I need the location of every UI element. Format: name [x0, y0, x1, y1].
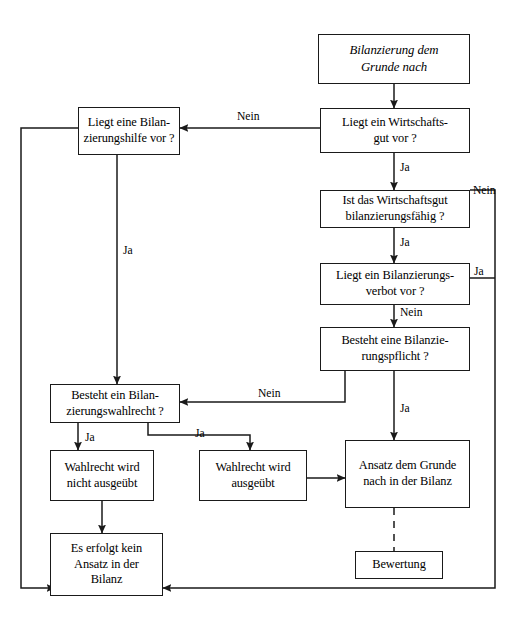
node-ist-das-wirtschaftsgut-bilanzierungsfaehig: Ist das Wirtschaftsgut bilanzierungsfähi… — [320, 190, 470, 228]
wahlrecht-nicht-line-2: nicht ausgeübt — [67, 476, 138, 490]
ansatz-line-2: nach in der Bilanz — [363, 474, 452, 488]
node-ansatz-dem-grunde-nach-in-der-bilanz: Ansatz dem Grunde nach in der Bilanz — [345, 440, 470, 508]
edge-bilanzierungsfaehig-nein — [163, 190, 495, 588]
bilanzierungsfaehig-line-1: Ist das Wirtschaftsgut — [342, 193, 447, 207]
edge-label-bilanzierungsfaehig-nein: Nein — [473, 185, 496, 197]
edge-label-bilanzierungspflicht-nein: Nein — [258, 388, 281, 400]
wirtschaftsgut-line-1: Liegt ein Wirtschafts- — [342, 115, 448, 129]
node-wahlrecht-wird-ausgeuebt: Wahlrecht wird ausgeübt — [199, 450, 307, 501]
edge-label-wirtschaftsgut-ja: Ja — [400, 162, 410, 174]
title-line-1: Bilanzierung dem — [349, 43, 438, 57]
bilanzierungsverbot-line-1: Liegt ein Bilanzierungs- — [336, 268, 454, 282]
edge-label-wahlrecht-ja-right: Ja — [195, 428, 205, 440]
title-line-2: Grunde nach — [361, 60, 427, 74]
wirtschaftsgut-line-2: gut vor ? — [373, 131, 416, 145]
bilanzierungspflicht-line-1: Besteht eine Bilanzie- — [341, 333, 448, 347]
bilanzierungswahlrecht-line-1: Besteht ein Bilan- — [71, 388, 159, 402]
kein-ansatz-line-2: Ansatz in der — [74, 557, 139, 571]
node-besteht-eine-bilanzierungspflicht: Besteht eine Bilanzie- rungspflicht ? — [320, 327, 470, 371]
flowchart-diagram: Bilanzierung dem Grunde nach Liegt ein W… — [0, 0, 519, 640]
edge-label-bilanzierungsverbot-ja: Ja — [474, 266, 484, 278]
bilanzierungspflicht-line-2: rungspflicht ? — [361, 349, 428, 363]
node-besteht-ein-bilanzierungswahlrecht: Besteht ein Bilan- zierungswahlrecht ? — [50, 384, 180, 423]
wahlrecht-ausgeuebt-line-1: Wahlrecht wird — [215, 460, 290, 474]
edge-label-wirtschaftsgut-nein: Nein — [237, 111, 260, 123]
edge-label-wahlrecht-ja-left: Ja — [85, 432, 95, 444]
ansatz-line-1: Ansatz dem Grunde — [359, 458, 456, 472]
node-liegt-eine-bilanzierungshilfe: Liegt eine Bilan- zierungshilfe vor ? — [78, 107, 180, 155]
kein-ansatz-line-3: Bilanz — [91, 572, 123, 586]
wahlrecht-nicht-line-1: Wahlrecht wird — [64, 460, 139, 474]
node-liegt-ein-wirtschaftsgut: Liegt ein Wirtschafts- gut vor ? — [320, 108, 470, 153]
bilanzierungshilfe-line-1: Liegt eine Bilan- — [88, 115, 170, 129]
edge-label-bilanzierungsverbot-nein: Nein — [400, 307, 423, 319]
bewertung-line-1: Bewertung — [372, 557, 425, 571]
node-liegt-ein-bilanzierungsverbot: Liegt ein Bilanzierungs- verbot vor ? — [320, 263, 470, 305]
bilanzierungsverbot-line-2: verbot vor ? — [366, 284, 425, 298]
edge-bilanzierungshilfe-nein — [21, 128, 78, 588]
node-bewertung: Bewertung — [355, 551, 443, 579]
node-wahlrecht-wird-nicht-ausgeuebt: Wahlrecht wird nicht ausgeübt — [50, 450, 154, 501]
node-es-erfolgt-kein-ansatz-in-der-bilanz: Es erfolgt kein Ansatz in der Bilanz — [50, 533, 163, 596]
edge-label-bilanzierungspflicht-ja: Ja — [400, 403, 410, 415]
wahlrecht-ausgeuebt-line-2: ausgeübt — [231, 476, 274, 490]
bilanzierungsfaehig-line-2: bilanzierungsfähig ? — [346, 209, 445, 223]
bilanzierungshilfe-line-2: zierungshilfe vor ? — [84, 131, 175, 145]
bilanzierungswahlrecht-line-2: zierungswahlrecht ? — [66, 404, 164, 418]
node-title-bilanzierung-dem-grunde-nach: Bilanzierung dem Grunde nach — [318, 34, 470, 84]
edge-label-bilanzierungsfaehig-ja: Ja — [400, 237, 410, 249]
edge-label-bilanzierungshilfe-ja: Ja — [123, 245, 133, 257]
kein-ansatz-line-1: Es erfolgt kein — [71, 541, 142, 555]
